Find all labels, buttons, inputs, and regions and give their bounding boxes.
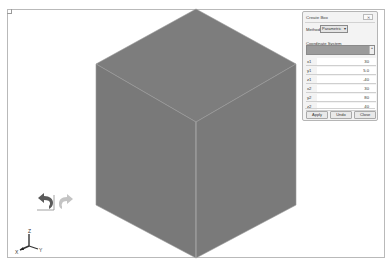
field-label: y1 (307, 68, 311, 73)
y2-input[interactable]: 80 (317, 94, 376, 101)
field-label: x2 (307, 86, 311, 91)
x2-input[interactable]: 30 (317, 85, 376, 92)
close-icon[interactable]: ✕ (363, 14, 373, 20)
field-row-x1: x1 30 (306, 57, 376, 66)
undo-arrow-icon[interactable] (35, 192, 55, 211)
z1-input[interactable]: -40 (317, 76, 376, 83)
svg-text:Z: Z (28, 228, 31, 234)
buttons-divider (305, 108, 375, 109)
dialog-button-bar: Apply Undo Close (306, 111, 376, 119)
svg-text:X: X (15, 249, 19, 255)
field-row-x2: x2 30 (306, 84, 376, 93)
field-label: x1 (307, 59, 311, 64)
x1-input[interactable]: 30 (317, 58, 376, 65)
field-row-z1: z1 -40 (306, 75, 376, 84)
svg-text:Y: Y (39, 247, 43, 253)
field-row-y1: y1 5.0 (306, 66, 376, 75)
axis-triad: Z X Y (14, 228, 46, 256)
field-row-y2: y2 80 (306, 93, 376, 102)
apply-button[interactable]: Apply (306, 111, 328, 119)
close-button[interactable]: Close (354, 111, 376, 119)
undo-button[interactable]: Undo (330, 111, 352, 119)
dialog-title: Create Box (306, 15, 328, 20)
method-label: Method (306, 27, 320, 32)
field-row-z2: z2 40 (306, 102, 376, 111)
redo-arrow-icon[interactable] (58, 193, 76, 210)
scroll-up-icon[interactable]: ▲ (369, 46, 374, 54)
y1-input[interactable]: 5.0 (317, 67, 376, 74)
create-box-dialog: Create Box ✕ Method Parametric ▾ Coordin… (302, 11, 378, 121)
method-value: Parametric (322, 26, 341, 31)
field-label: y2 (307, 95, 311, 100)
field-label: z1 (307, 77, 311, 82)
chevron-down-icon: ▾ (344, 26, 346, 32)
method-dropdown[interactable]: Parametric ▾ (320, 25, 348, 33)
title-divider (305, 22, 375, 23)
coordinate-system-list[interactable]: ▲ (306, 45, 375, 55)
box-parameter-fields: x1 30 y1 5.0 z1 -40 x2 30 y2 80 z2 40 (306, 57, 376, 111)
